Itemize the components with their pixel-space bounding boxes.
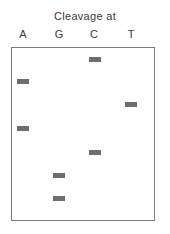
diagram-title: Cleavage at bbox=[0, 10, 170, 22]
lane-label-g: G bbox=[49, 28, 69, 40]
band-a-4 bbox=[17, 126, 29, 131]
band-a-2 bbox=[17, 79, 29, 84]
lane-label-a: A bbox=[13, 28, 33, 40]
gel-frame bbox=[11, 47, 155, 221]
lane-label-t: T bbox=[121, 28, 141, 40]
band-t-3 bbox=[125, 102, 137, 107]
lane-label-c: C bbox=[84, 28, 104, 40]
band-c-1 bbox=[89, 57, 101, 62]
band-c-5 bbox=[89, 150, 101, 155]
band-g-7 bbox=[53, 196, 65, 201]
band-g-6 bbox=[53, 173, 65, 178]
